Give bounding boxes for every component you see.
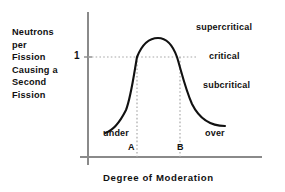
annotation-under: under — [103, 128, 129, 140]
x-tick-label-a: A — [128, 142, 135, 154]
chart-figure: Neutrons per Fission Causing a Second Fi… — [0, 0, 285, 192]
y-axis-title-line-6: Fission — [12, 89, 58, 102]
y-axis-title-line-4: Causing a — [12, 64, 58, 77]
y-axis-title-line-1: Neutrons — [12, 26, 58, 39]
annotation-over: over — [205, 128, 225, 140]
region-label-subcritical: subcritical — [203, 80, 250, 92]
y-tick-label-one: 1 — [74, 50, 80, 63]
y-axis-title-line-3: Fission — [12, 51, 58, 64]
region-label-critical: critical — [209, 51, 240, 63]
y-axis-title-line-2: per — [12, 39, 58, 52]
region-label-supercritical: supercritical — [196, 22, 252, 34]
x-axis-title: Degree of Moderation — [103, 172, 214, 184]
x-tick-label-b: B — [177, 142, 184, 154]
y-axis-title: Neutrons per Fission Causing a Second Fi… — [12, 26, 58, 102]
y-axis-title-line-5: Second — [12, 76, 58, 89]
